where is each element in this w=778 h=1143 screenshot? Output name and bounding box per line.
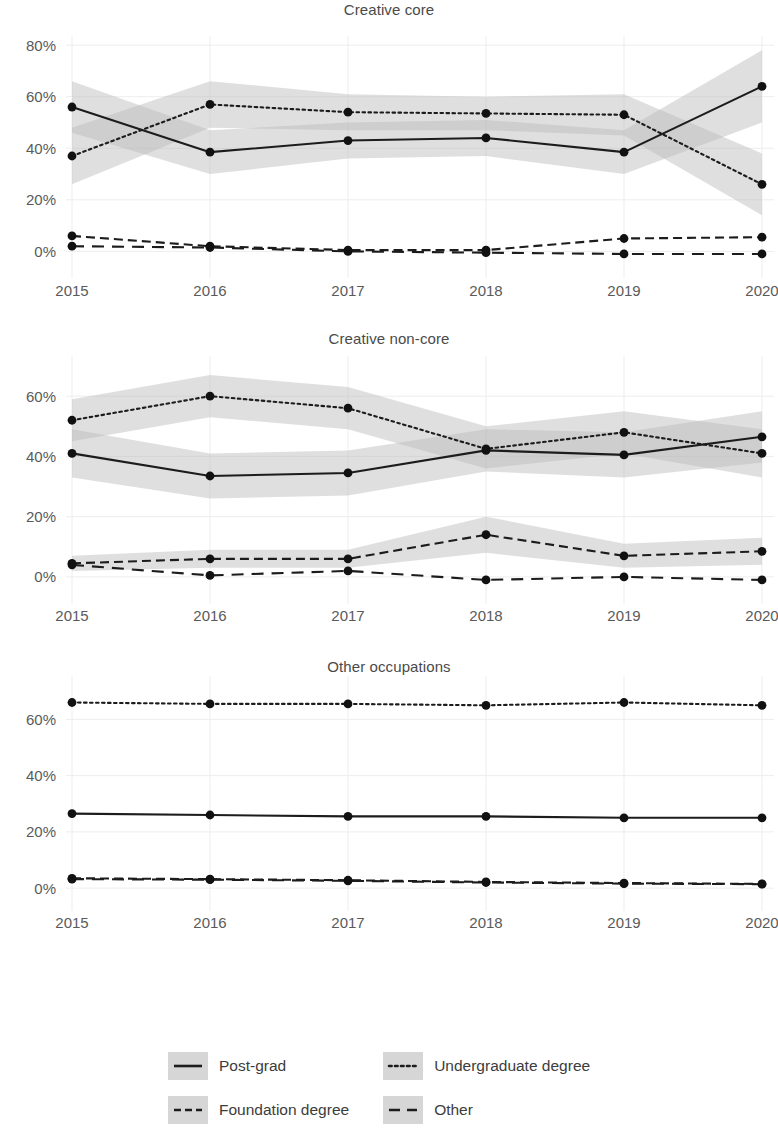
data-point xyxy=(482,701,491,710)
legend-line-swatch-icon xyxy=(168,1052,208,1080)
data-point xyxy=(482,576,491,585)
data-point xyxy=(620,450,629,459)
x-axis-tick-label: 2019 xyxy=(607,914,640,931)
data-point xyxy=(68,232,77,241)
panel-creative-non-core: Creative non-core 0%20%40%60%20152016201… xyxy=(0,318,778,640)
data-point xyxy=(758,180,767,189)
data-point xyxy=(482,444,491,453)
y-axis-tick-label: 40% xyxy=(26,140,56,157)
y-axis-tick-label: 20% xyxy=(26,191,56,208)
y-axis-tick-label: 60% xyxy=(26,88,56,105)
legend-line-swatch-icon xyxy=(383,1052,423,1080)
y-axis-tick-label: 40% xyxy=(26,448,56,465)
y-axis-tick-label: 40% xyxy=(26,767,56,784)
x-axis-tick-label: 2017 xyxy=(331,282,364,299)
x-axis-tick-label: 2017 xyxy=(331,607,364,624)
data-point xyxy=(620,698,629,707)
x-axis-tick-label: 2015 xyxy=(55,914,88,931)
x-axis-tick-label: 2016 xyxy=(193,607,226,624)
data-point xyxy=(68,560,77,569)
legend-item[interactable]: Other xyxy=(383,1096,590,1124)
plot-area: 0%20%40%60%201520162017201820192020 xyxy=(0,318,778,640)
data-point xyxy=(620,428,629,437)
x-axis-tick-label: 2018 xyxy=(469,607,502,624)
x-axis-tick-label: 2019 xyxy=(607,607,640,624)
data-point xyxy=(482,109,491,118)
data-point xyxy=(206,700,215,709)
data-point xyxy=(344,812,353,821)
data-point xyxy=(206,554,215,563)
y-axis-tick-label: 0% xyxy=(34,568,56,585)
x-axis-tick-label: 2015 xyxy=(55,282,88,299)
data-point xyxy=(206,148,215,157)
legend-item[interactable]: Undergraduate degree xyxy=(383,1052,590,1080)
faceted-line-chart: Creative core 0%20%40%60%80%201520162017… xyxy=(0,0,778,1143)
data-point xyxy=(344,566,353,575)
data-point xyxy=(206,875,215,884)
data-point xyxy=(344,876,353,885)
y-axis-tick-label: 0% xyxy=(34,243,56,260)
data-point xyxy=(344,108,353,117)
data-point xyxy=(68,242,77,251)
panel-creative-core: Creative core 0%20%40%60%80%201520162017… xyxy=(0,0,778,318)
data-point xyxy=(68,103,77,112)
data-point xyxy=(344,554,353,563)
data-point xyxy=(758,250,767,259)
data-point xyxy=(620,110,629,119)
data-point xyxy=(68,875,77,884)
series-line xyxy=(72,703,762,706)
y-axis-tick-label: 20% xyxy=(26,508,56,525)
legend-item[interactable]: Foundation degree xyxy=(168,1096,349,1124)
data-point xyxy=(758,82,767,91)
data-point xyxy=(206,100,215,109)
legend-label: Other xyxy=(434,1101,473,1119)
data-point xyxy=(758,880,767,889)
data-point xyxy=(482,530,491,539)
data-point xyxy=(758,547,767,556)
x-axis-tick-label: 2020 xyxy=(745,282,778,299)
data-point xyxy=(344,404,353,413)
data-point xyxy=(620,148,629,157)
data-point xyxy=(482,134,491,143)
series-line xyxy=(72,246,762,254)
y-axis-tick-label: 0% xyxy=(34,880,56,897)
data-point xyxy=(68,416,77,425)
confidence-band xyxy=(72,517,762,571)
plot-area: 0%20%40%60%80%201520162017201820192020 xyxy=(0,0,778,318)
legend-grid: Post-gradUndergraduate degreeFoundation … xyxy=(168,1052,590,1124)
data-point xyxy=(620,551,629,560)
data-point xyxy=(344,247,353,256)
plot-area: 0%20%40%60%201520162017201820192020 xyxy=(0,640,778,950)
data-point xyxy=(206,811,215,820)
x-axis-tick-label: 2020 xyxy=(745,607,778,624)
series-line xyxy=(72,814,762,818)
data-point xyxy=(620,250,629,259)
data-point xyxy=(344,469,353,478)
data-point xyxy=(206,392,215,401)
data-point xyxy=(758,233,767,242)
data-point xyxy=(758,576,767,585)
x-axis-tick-label: 2019 xyxy=(607,282,640,299)
chart-legend: Post-gradUndergraduate degreeFoundation … xyxy=(0,1040,778,1143)
data-point xyxy=(344,136,353,145)
x-axis-tick-label: 2018 xyxy=(469,282,502,299)
y-axis-tick-label: 60% xyxy=(26,388,56,405)
data-point xyxy=(68,698,77,707)
data-point xyxy=(482,812,491,821)
data-point xyxy=(68,809,77,818)
legend-item[interactable]: Post-grad xyxy=(168,1052,349,1080)
x-axis-tick-label: 2017 xyxy=(331,914,364,931)
data-point xyxy=(206,472,215,481)
data-point xyxy=(758,432,767,441)
legend-line-swatch-icon xyxy=(168,1096,208,1124)
data-point xyxy=(344,700,353,709)
x-axis-tick-label: 2018 xyxy=(469,914,502,931)
data-point xyxy=(68,152,77,161)
data-point xyxy=(68,449,77,458)
y-axis-tick-label: 60% xyxy=(26,711,56,728)
data-point xyxy=(620,813,629,822)
legend-label: Foundation degree xyxy=(219,1101,349,1119)
legend-label: Undergraduate degree xyxy=(434,1057,590,1075)
data-point xyxy=(620,234,629,243)
data-point xyxy=(482,248,491,257)
